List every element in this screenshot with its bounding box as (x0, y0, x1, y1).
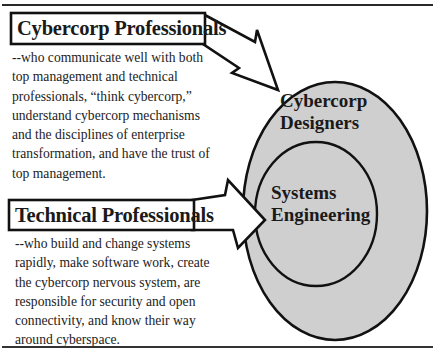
outer-circle-label-line: Designers (280, 112, 367, 134)
inner-circle-label: Systems Engineering (271, 182, 370, 226)
inner-circle-label-line: Systems (271, 182, 370, 204)
bottom-rule (2, 346, 433, 348)
description-line: top management. (12, 164, 210, 183)
description-line: top management and technical (12, 67, 210, 86)
description-line: professionals, “think cybercorp,” (12, 87, 210, 106)
description-line: understand cybercorp mechanisms (12, 106, 210, 125)
outer-circle-label-line: Cybercorp (280, 90, 367, 112)
description-line: --who communicate well with both (12, 48, 210, 67)
technical-professionals-description: --who build and change systems rapidly, … (15, 234, 210, 349)
description-line: rapidly, make software work, create (15, 253, 210, 272)
outer-circle-label: Cybercorp Designers (280, 90, 367, 134)
description-line: and the disciplines of enterprise (12, 125, 210, 144)
cybercorp-professionals-title: Cybercorp Professionals (17, 18, 226, 39)
description-line: responsible for security and open (15, 292, 210, 311)
description-line: --who build and change systems (15, 234, 210, 253)
cybercorp-professionals-description: --who communicate well with both top man… (12, 48, 210, 183)
description-line: the cybercorp nervous system, are (15, 273, 210, 292)
inner-circle-label-line: Engineering (271, 204, 370, 226)
technical-professionals-title: Technical Professionals (15, 205, 214, 226)
description-line: transformation, and have the trust of (12, 144, 210, 163)
description-line: connectivity, and know their way (15, 311, 210, 330)
